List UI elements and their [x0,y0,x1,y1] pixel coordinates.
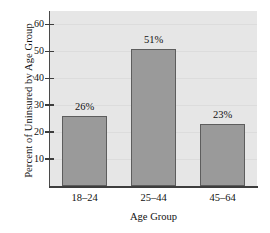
gridline [50,24,257,25]
bar-value-label: 51% [124,34,184,45]
y-axis-line [49,11,50,187]
y-axis-tick-mark [45,131,54,133]
y-axis-tick-mark [45,78,54,80]
y-axis-tick-mark [45,24,54,26]
y-axis-tick-mark [45,104,54,106]
y-axis-tick-label: 10 [4,154,44,164]
y-axis-tick-label: 60 [4,19,44,29]
y-axis-tick-label: 40 [4,73,44,83]
x-axis-title: Age Group [50,211,257,222]
y-axis-tick-label: 30 [4,100,44,110]
bar [131,49,176,186]
y-axis-tick-label: 20 [4,127,44,137]
x-axis-line [49,186,258,188]
y-axis-tick-labels: 102030405060 [0,0,46,233]
bar-value-label: 23% [193,109,253,120]
x-axis-tick-label: 25–44 [119,192,189,203]
bar-chart-figure: Percent of Uninsured by Age Group 102030… [0,0,270,233]
bar-value-label: 26% [55,101,115,112]
y-axis-tick-label: 50 [4,46,44,56]
x-axis-tick-label: 18–24 [50,192,120,203]
bar [200,124,245,186]
bar [62,116,107,186]
x-axis-tick-label: 45–64 [188,192,258,203]
y-axis-tick-mark [45,51,54,53]
y-axis-tick-mark [45,158,54,160]
